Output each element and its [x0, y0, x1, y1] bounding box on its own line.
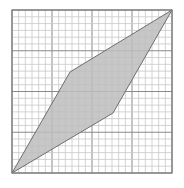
grid-diagram: [0, 0, 184, 188]
